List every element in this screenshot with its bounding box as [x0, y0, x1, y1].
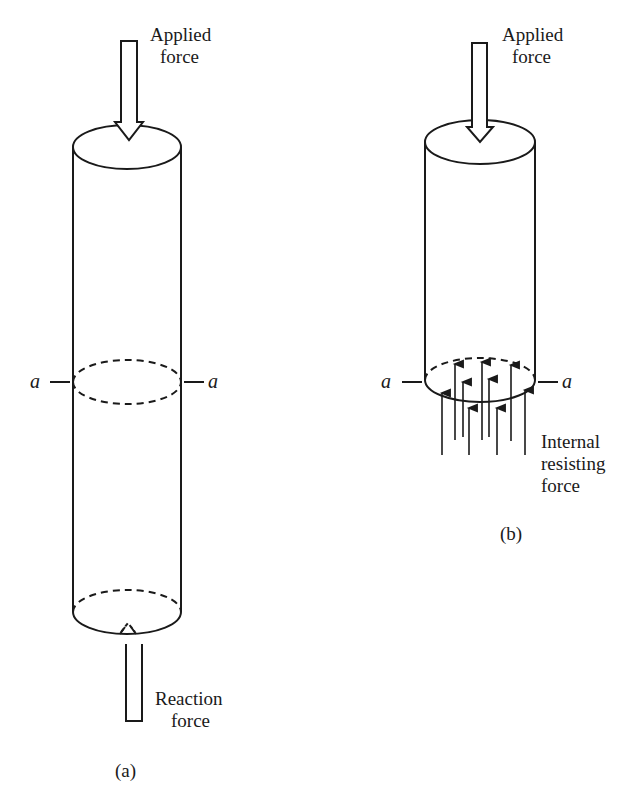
internal-force-label-line3: force — [541, 475, 580, 497]
section-b-back — [425, 358, 535, 380]
applied-force-arrow-a — [115, 41, 143, 140]
cylinder-a-bottom-back — [73, 590, 181, 612]
cylinder-a — [50, 125, 204, 634]
applied-force-arrow-b — [467, 43, 493, 142]
diagram-canvas — [0, 0, 641, 811]
section-label-b-right: a — [562, 370, 572, 392]
section-a-a-dashed — [73, 360, 181, 382]
internal-resisting-force-arrows — [442, 362, 525, 455]
applied-force-label-b-line1: Applied — [502, 24, 563, 46]
cylinder-b — [402, 120, 558, 402]
section-label-a-left: a — [30, 370, 40, 392]
caption-b: (b) — [500, 523, 522, 545]
section-label-a-right: a — [208, 370, 218, 392]
applied-force-label-b-line2: force — [512, 46, 551, 68]
internal-force-label-line2: resisting — [541, 453, 605, 475]
applied-force-label-a-line2: force — [160, 46, 199, 68]
applied-force-label-a-line1: Applied — [150, 24, 211, 46]
section-label-b-left: a — [381, 370, 391, 392]
caption-a: (a) — [115, 760, 136, 782]
internal-force-label-line1: Internal — [541, 431, 600, 453]
reaction-force-label-line1: Reaction — [155, 688, 223, 710]
reaction-force-label-line2: force — [171, 710, 210, 732]
reaction-force-arrow-a — [120, 623, 142, 721]
